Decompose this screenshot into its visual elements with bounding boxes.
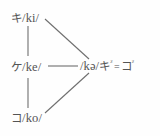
- node-ki-kana: キ: [11, 11, 22, 25]
- node-ke-ipa: /ke/: [22, 60, 41, 74]
- node-ka-gloss-kana-2: コ: [121, 59, 132, 73]
- node-ko-ipa: /ko/: [22, 111, 42, 125]
- node-ke: ケ/ke/: [11, 61, 41, 74]
- edge-ki-to-ka: [45, 19, 89, 59]
- edge-ko-to-ka: [45, 73, 89, 113]
- node-ke-kana: ケ: [11, 60, 22, 74]
- node-ka-schwa: /kə/キᶻ=コᶻ: [80, 60, 134, 73]
- node-ka-ipa: /kə/: [80, 59, 99, 73]
- katakana-neutralization-diagram: キ/ki/ ケ/ke/ コ/ko/ /kə/キᶻ=コᶻ: [0, 0, 160, 136]
- node-ka-superscript-2: ᶻ: [132, 59, 135, 67]
- node-ko-kana: コ: [11, 111, 22, 125]
- node-ka-equals-sign: =: [113, 61, 121, 72]
- node-ki: キ/ki/: [11, 12, 39, 25]
- node-ka-gloss-kana-1: キ: [99, 59, 110, 73]
- node-ki-ipa: /ki/: [22, 11, 39, 25]
- node-ko: コ/ko/: [11, 112, 42, 125]
